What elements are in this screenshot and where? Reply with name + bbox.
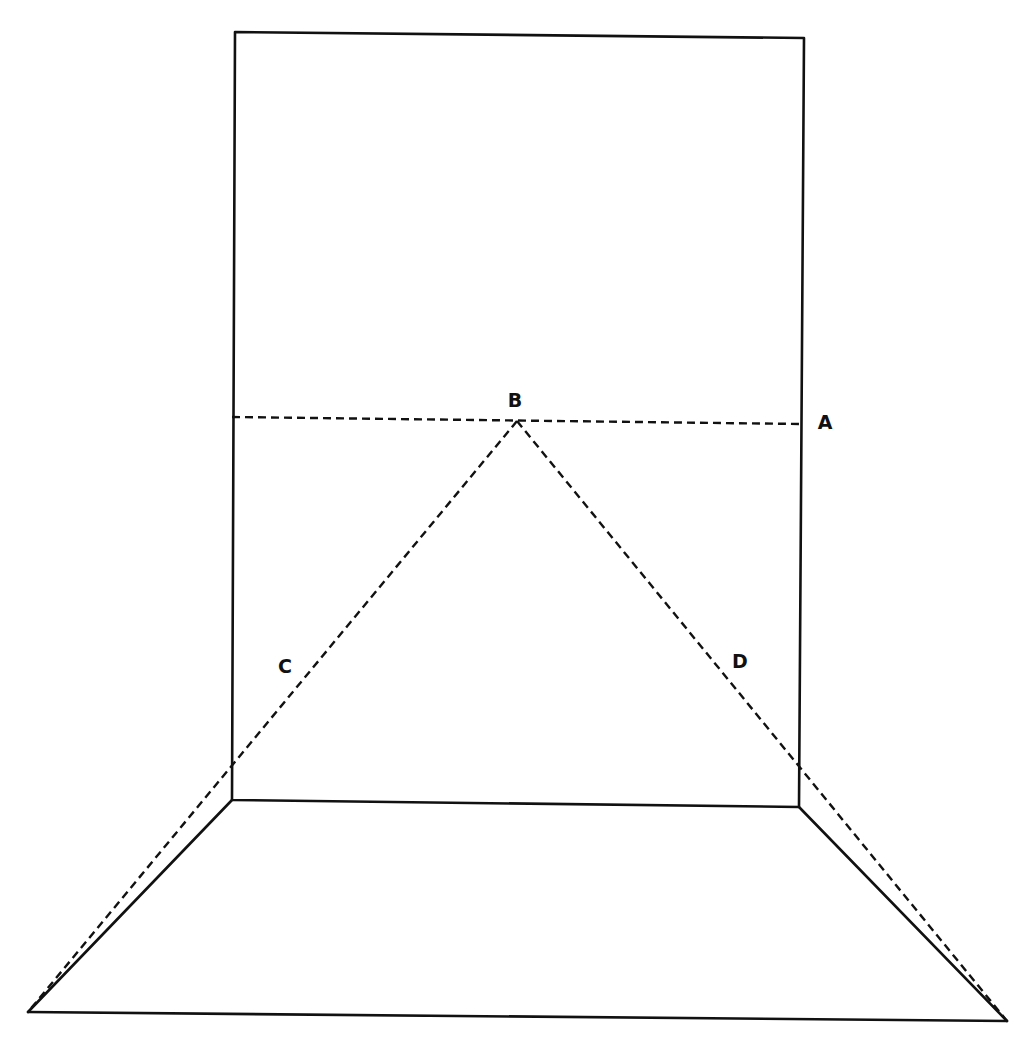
- floor-left-edge: [28, 800, 232, 1012]
- point-label-c: C: [278, 657, 292, 676]
- dashed-line-bd: [517, 421, 1007, 1021]
- floor-right-edge: [799, 807, 1007, 1021]
- point-label-b: B: [508, 391, 522, 410]
- point-label-a: A: [818, 413, 833, 432]
- floor-bottom-edge: [28, 1012, 1007, 1021]
- geometry-diagram: [0, 0, 1031, 1056]
- point-label-d: D: [732, 652, 748, 671]
- dashed-line-bc: [28, 421, 517, 1012]
